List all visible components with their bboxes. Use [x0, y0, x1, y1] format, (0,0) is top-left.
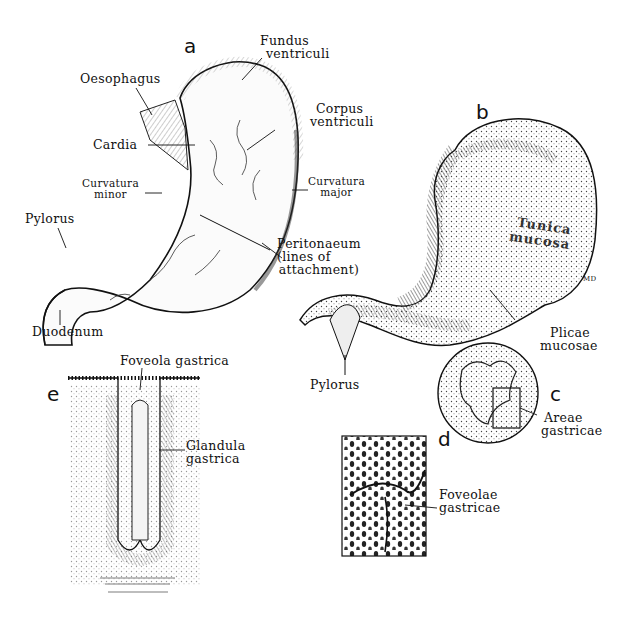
label-glandula-gastrica: Glandula gastrica [186, 439, 245, 465]
label-plicae-mucosae: Plicae mucosae [540, 326, 598, 352]
label-pylorus-a: Pylorus [25, 212, 75, 225]
panel-label-c: c [550, 382, 561, 406]
label-foveola-gastrica: Foveola gastrica [120, 354, 229, 367]
panel-label-d: d [438, 427, 451, 451]
label-curvatura-minor: Curvatura minor [82, 178, 139, 200]
label-fundus: Fundus ventriculi [260, 34, 330, 60]
panel-e-gastric-gland [68, 368, 200, 592]
label-duodenum: Duodenum [32, 325, 103, 338]
panel-a-stomach [43, 62, 298, 345]
label-cardia: Cardia [93, 138, 137, 151]
panel-c-magnified-mucosa [438, 343, 538, 443]
label-foveolae-gastricae: Foveolae gastricae [439, 488, 500, 514]
panel-label-b: b [476, 100, 489, 124]
panel-label-e: e [47, 382, 59, 406]
panel-d-foveolae [342, 436, 437, 556]
stomach-illustration [0, 0, 638, 631]
label-areae-gastricae: Areae gastricae [541, 411, 602, 437]
label-corpus: Corpus ventriculi [310, 102, 374, 128]
label-curvatura-major: Curvatura major [308, 176, 365, 198]
panel-label-a: a [184, 34, 196, 58]
label-oesophagus: Oesophagus [80, 72, 161, 85]
label-signature: MD [583, 274, 596, 285]
label-peritonaeum: Peritonaeum (lines of attachment) [277, 237, 361, 276]
label-pylorus-b: Pylorus [310, 378, 360, 391]
